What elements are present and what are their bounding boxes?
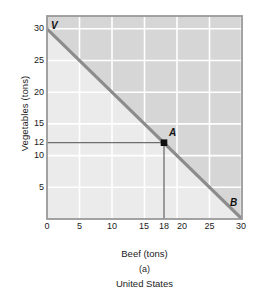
y-axis-title: Vegetables (tons) (19, 44, 30, 184)
x-tick-label-10: 10 (100, 222, 124, 231)
annotation-label-v: V (51, 21, 58, 31)
panel-title: United States (47, 278, 242, 289)
x-tick-label-20: 20 (170, 222, 194, 231)
x-tick-label-25: 25 (198, 222, 222, 231)
panel-letter: (a) (47, 264, 242, 274)
annotation-label-b: B (230, 198, 237, 208)
x-tick-label-5: 5 (68, 222, 92, 231)
annotation-label-a: A (169, 128, 176, 138)
data-point-a-marker (161, 139, 168, 146)
x-tick-label-0: 0 (35, 222, 59, 231)
figure-panel: 30 25 20 15 12 10 5 0 5 10 15 18 20 25 3… (0, 0, 257, 296)
x-tick-label-30: 30 (229, 222, 253, 231)
y-tick-label-30: 30 (20, 24, 44, 33)
y-tick-label-5: 5 (20, 183, 44, 192)
x-axis-title: Beef (tons) (47, 248, 242, 259)
